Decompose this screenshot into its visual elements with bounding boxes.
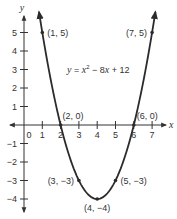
- data-point-marker: [41, 31, 45, 35]
- labeled-points: (1, 5)(7, 5)(2, 0)(6, 0)(3, −3)(5, −3)(4…: [41, 28, 158, 214]
- data-point-label: (7, 5): [126, 28, 147, 38]
- y-tick-label: 5: [12, 28, 17, 38]
- x-tick-label: 0: [26, 130, 31, 140]
- x-tick-label: 1: [40, 130, 45, 140]
- y-tick-label: 3: [12, 65, 17, 75]
- data-point-marker: [95, 197, 99, 201]
- axes: x y: [10, 2, 174, 212]
- equation-label: y = x2 − 8x + 12: [66, 64, 130, 75]
- parabola-chart: x y 01234567 54321−1−2−3−4 (1, 5)(7, 5)(…: [0, 0, 177, 219]
- y-tick-label: 4: [12, 46, 17, 56]
- data-point-marker: [114, 179, 118, 183]
- data-point-marker: [77, 179, 81, 183]
- y-tick-label: −2: [7, 157, 17, 167]
- y-tick-label: −3: [7, 176, 17, 186]
- x-ticks: 01234567: [26, 121, 154, 140]
- x-tick-label: 4: [95, 130, 100, 140]
- y-ticks: 54321−1−2−3−4: [7, 28, 28, 205]
- x-axis-label: x: [168, 119, 174, 130]
- data-point-marker: [59, 123, 63, 127]
- data-point-marker: [150, 31, 154, 35]
- data-point-marker: [132, 123, 136, 127]
- data-point-label: (5, −3): [121, 176, 147, 186]
- data-point-label: (4, −4): [84, 203, 110, 213]
- data-point-label: (6, 0): [137, 111, 158, 121]
- parabola-curve: [39, 12, 155, 199]
- data-point-label: (2, 0): [63, 111, 84, 121]
- y-tick-label: 2: [12, 83, 17, 93]
- data-point-label: (3, −3): [48, 176, 74, 186]
- equation-middle: − 8: [90, 65, 105, 75]
- y-tick-label: −1: [7, 139, 17, 149]
- x-tick-label: 5: [113, 130, 118, 140]
- equation-constant: + 12: [109, 65, 129, 75]
- x-tick-label: 3: [76, 130, 81, 140]
- y-tick-label: 1: [12, 102, 17, 112]
- x-tick-label: 7: [150, 130, 155, 140]
- data-point-label: (1, 5): [47, 28, 68, 38]
- y-tick-label: −4: [7, 194, 17, 204]
- y-axis-label: y: [19, 2, 25, 13]
- equation-equals: =: [71, 65, 81, 75]
